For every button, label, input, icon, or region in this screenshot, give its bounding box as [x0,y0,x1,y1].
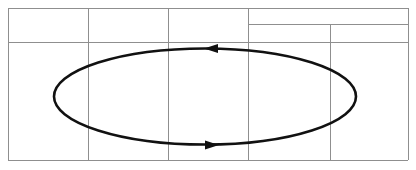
figure-root [0,0,416,170]
circulation-diagram-svg [0,0,416,170]
circulation-ellipse [54,49,356,145]
top-flow-arrow-icon [204,44,218,53]
cell-grid [8,8,408,160]
bottom-flow-arrow-icon [205,141,219,150]
flow-loop [54,44,356,150]
